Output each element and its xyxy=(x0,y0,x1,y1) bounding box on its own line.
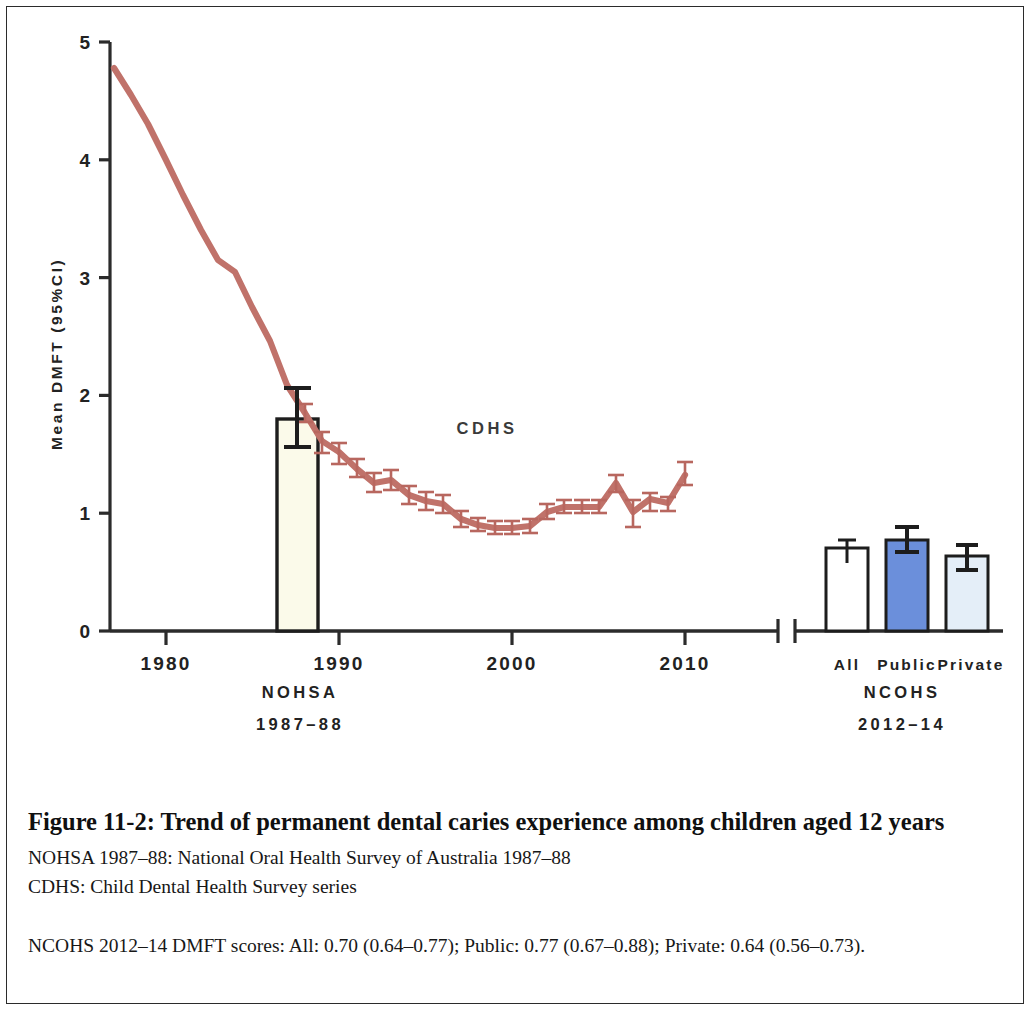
x-tick-1990: 1990 xyxy=(313,653,364,674)
dmft-trend-chart: 5 4 3 2 1 0 Mean DMFT (95%CI) 1980 1990 xyxy=(0,0,1031,790)
figure-caption-title: Figure 11-2: Trend of permanent dental c… xyxy=(28,806,968,837)
nohsa-group-caption: NOHSA 1987–88 xyxy=(256,683,344,733)
ncohs-cat-private: Private xyxy=(937,656,1004,673)
ncohs-panel: All Public Private NCOHS 2012–14 xyxy=(795,527,1005,733)
ncohs-years: 2012–14 xyxy=(858,715,946,733)
ncohs-cat-public: Public xyxy=(877,656,937,673)
ncohs-label: NCOHS xyxy=(864,683,941,701)
x-tick-1980: 1980 xyxy=(140,653,191,674)
ncohs-cat-all: All xyxy=(834,656,860,673)
figure-note-nohsa: NOHSA 1987–88: National Oral Health Surv… xyxy=(28,843,1003,872)
y-tick-1: 1 xyxy=(79,503,90,524)
figure-page: 5 4 3 2 1 0 Mean DMFT (95%CI) 1980 1990 xyxy=(0,0,1031,1011)
figure-scores-line: NCOHS 2012–14 DMFT scores: All: 0.70 (0.… xyxy=(28,931,1003,960)
y-tick-4: 4 xyxy=(79,150,90,171)
cdhs-trend-line xyxy=(114,68,693,534)
figure-caption-block: Figure 11-2: Trend of permanent dental c… xyxy=(28,806,1003,960)
nohsa-years: 1987–88 xyxy=(256,715,344,733)
x-tick-2000: 2000 xyxy=(486,653,537,674)
nohsa-bar xyxy=(277,419,318,631)
x-axis: 1980 1990 2000 2010 xyxy=(110,619,778,674)
y-axis: 5 4 3 2 1 0 xyxy=(79,32,110,642)
figure-note-cdhs: CDHS: Child Dental Health Survey series xyxy=(28,872,1003,901)
nohsa-label: NOHSA xyxy=(262,683,339,701)
y-tick-0: 0 xyxy=(79,621,90,642)
y-tick-2: 2 xyxy=(79,385,90,406)
nohsa-bar-group xyxy=(277,419,318,631)
y-tick-3: 3 xyxy=(79,268,90,289)
y-axis-title: Mean DMFT (95%CI) xyxy=(48,258,65,450)
chart-canvas: 5 4 3 2 1 0 Mean DMFT (95%CI) 1980 1990 xyxy=(0,0,1031,790)
cdhs-series-label: CDHS xyxy=(456,419,517,437)
x-tick-2010: 2010 xyxy=(659,653,710,674)
y-tick-5: 5 xyxy=(79,32,90,53)
